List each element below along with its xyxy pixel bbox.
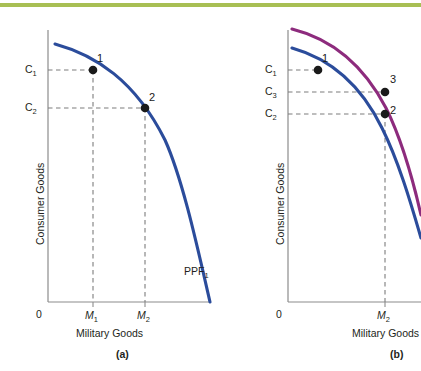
point-2-label-b: 2	[390, 104, 396, 116]
panel-a-plot	[0, 0, 211, 371]
x-tick-label-m1: M1	[85, 310, 98, 324]
panel-b-caption: (b)	[390, 348, 403, 360]
ppf2-curve	[292, 29, 421, 215]
panel-a-caption: (a)	[116, 348, 129, 360]
x-axis-title-a: Military Goods	[76, 327, 143, 339]
origin-label-b: 0	[276, 308, 282, 320]
point-3-marker	[381, 88, 390, 97]
point-1-marker	[89, 66, 98, 75]
y-tick-label-c1-b: C1	[265, 64, 277, 78]
ppf1-label: PPF1	[184, 265, 209, 280]
point-1-marker-b	[314, 66, 323, 75]
point-1-label-b: 1	[322, 52, 328, 64]
x-tick-label-m2: M2	[137, 310, 150, 324]
y-tick-label-c2: C2	[25, 102, 37, 116]
x-tick-label-m2-b: M2	[377, 310, 390, 324]
origin-label-a: 0	[36, 308, 42, 320]
y-axis-title-b: Consumer Goods	[274, 163, 286, 245]
ppf1-curve	[55, 44, 210, 302]
y-tick-label-c2-b: C2	[265, 108, 277, 122]
point-1-label: 1	[97, 52, 103, 64]
y-tick-label-c1: C1	[25, 64, 37, 78]
y-tick-label-c3-b: C3	[265, 86, 277, 100]
panel-a: C1 C2 M1 M2 0 1 2 PPF1 Consumer Goods Mi…	[0, 0, 211, 371]
y-axis-title-a: Consumer Goods	[34, 163, 46, 245]
point-3-label: 3	[390, 73, 396, 85]
point-2-label: 2	[149, 91, 155, 103]
ppf-figure: C1 C2 M1 M2 0 1 2 PPF1 Consumer Goods Mi…	[0, 0, 421, 371]
panel-b: C1 C3 C2 M2 0 1 3 2 Consumer Goods Milit…	[210, 0, 421, 371]
x-axis-title-b: Military Goods	[352, 327, 419, 339]
point-2-marker	[141, 104, 150, 113]
point-2-marker-b	[381, 110, 390, 119]
